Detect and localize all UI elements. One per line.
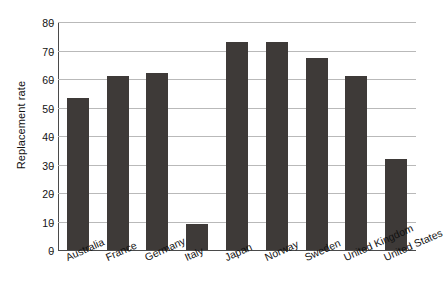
y-axis-tick-mark <box>50 251 54 252</box>
bar <box>306 58 328 250</box>
bar <box>146 73 168 250</box>
y-axis-tick-mark <box>50 166 54 167</box>
y-axis-tick-mark <box>50 223 54 224</box>
y-axis-tick-mark <box>50 109 54 110</box>
y-axis-tick-mark <box>50 23 54 24</box>
y-axis-tick-labels: 01020304050607080 <box>26 22 54 251</box>
x-axis-category-labels: AustraliaFranceGermanyItalyJapanNorwaySw… <box>58 251 434 307</box>
bar <box>266 42 288 250</box>
y-axis-tick-mark <box>50 80 54 81</box>
bars-layer <box>58 22 416 250</box>
y-axis-tick-mark <box>50 52 54 53</box>
bar <box>345 76 367 250</box>
y-axis-tick-mark <box>50 137 54 138</box>
bar <box>107 76 129 250</box>
bar <box>67 98 89 250</box>
y-axis-tick-mark <box>50 194 54 195</box>
bar <box>226 42 248 250</box>
plot-area <box>58 22 416 250</box>
